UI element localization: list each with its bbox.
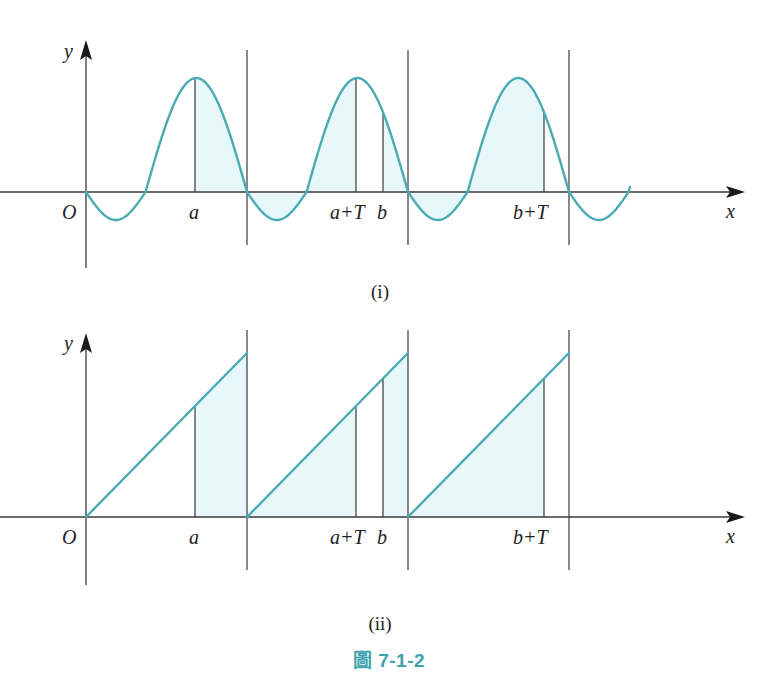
- origin-label: O: [62, 526, 76, 548]
- tick-label-b: b: [377, 201, 387, 223]
- origin-label: O: [62, 201, 76, 223]
- y-axis-label: y: [62, 332, 73, 355]
- figure-canvas: y x O a a+T b b+T (i) y x O a a+T b b+T …: [0, 0, 778, 688]
- tick-label-b-plus-T: b+T: [513, 526, 549, 548]
- tick-label-a-plus-T: a+T: [330, 526, 366, 548]
- figure-caption: 圖 7-1-2: [0, 645, 778, 672]
- figure-caption-prefix: 圖: [353, 650, 373, 671]
- y-axis-label: y: [62, 40, 73, 63]
- figure-caption-number: 7-1-2: [378, 650, 425, 671]
- tick-label-a: a: [189, 526, 199, 548]
- tick-label-a-plus-T: a+T: [330, 201, 366, 223]
- x-axis-label: x: [725, 200, 735, 222]
- panel-i: y x O a a+T b b+T (i): [0, 40, 745, 303]
- panel-caption-ii: (ii): [368, 613, 391, 635]
- sine-curve: [86, 78, 630, 220]
- panel-caption-i: (i): [371, 281, 389, 303]
- tick-label-a: a: [189, 201, 199, 223]
- x-axis-label: x: [725, 525, 735, 547]
- panel-ii: y x O a a+T b b+T (ii): [0, 330, 745, 635]
- tick-label-b-plus-T: b+T: [513, 201, 549, 223]
- tick-label-b: b: [377, 526, 387, 548]
